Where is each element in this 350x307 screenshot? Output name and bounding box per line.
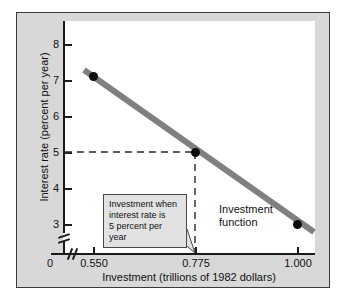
figure-panel: 8 7 6 5 4 3 0.550 0.775 1.000 0 Interest… bbox=[16, 12, 330, 288]
callout-line-3: 5 percent per year bbox=[109, 221, 181, 243]
investment-function-label-line-2: function bbox=[219, 216, 273, 229]
investment-function-label-line-1: Investment bbox=[219, 203, 273, 216]
callout-line-2: interest rate is bbox=[109, 210, 181, 221]
callout-box: Investment when interest rate is 5 perce… bbox=[103, 194, 187, 248]
callout-line-1: Investment when bbox=[109, 199, 181, 210]
investment-function-label: Investment function bbox=[219, 203, 273, 229]
